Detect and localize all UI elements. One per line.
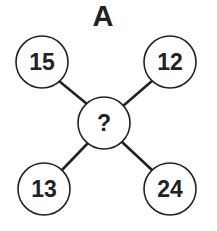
node-value: 13 [31,176,57,202]
node-value: 24 [157,176,183,202]
connector-bottom-right [122,142,152,170]
node-bottom-left: 13 [18,163,70,215]
connector-bottom-left [62,143,88,170]
node-value: 12 [157,49,183,75]
puzzle-title: A [93,0,114,32]
puzzle-diagram: A 15 12 ? 13 24 [0,0,217,231]
connector-top-left [59,81,87,104]
node-top-right: 12 [144,36,196,88]
center-unknown: ? [97,110,111,136]
connector-top-right [123,81,152,106]
node-top-left: 15 [16,36,68,88]
node-bottom-right: 24 [144,163,196,215]
node-center: ? [78,97,130,149]
node-value: 15 [29,49,55,75]
